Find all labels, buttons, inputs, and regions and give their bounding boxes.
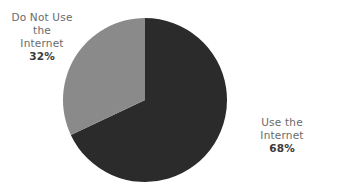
pie-chart: Do Not Use the Internet 32% Use the Inte…	[0, 0, 337, 188]
label-do-not-use-line1: Do Not Use	[10, 11, 74, 24]
label-do-not-use: Do Not Use the Internet 32%	[10, 11, 74, 63]
label-do-not-use-line2: the Internet	[10, 24, 74, 50]
label-do-not-use-pct: 32%	[10, 50, 74, 63]
label-use: Use the Internet 68%	[238, 116, 326, 155]
label-use-pct: 68%	[238, 142, 326, 155]
label-use-line1: Use the Internet	[238, 116, 326, 142]
